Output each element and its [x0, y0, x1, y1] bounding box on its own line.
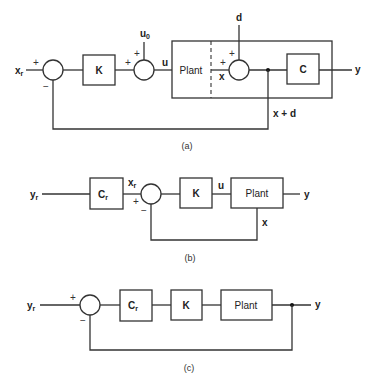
x-label: x: [219, 71, 225, 82]
output-y-label: y: [304, 189, 310, 200]
sum3-plus-left-sign: +: [220, 57, 226, 68]
sum-plus-sign: +: [70, 292, 76, 303]
summing-junction-3: [229, 60, 249, 80]
diagram-a: xr + − K + u0 + u Plant x + d +: [15, 12, 361, 151]
input-yr-label: yr: [27, 300, 36, 312]
output-y-label: y: [355, 64, 361, 75]
sum-minus-sign: −: [141, 205, 147, 216]
output-y-label: y: [315, 299, 321, 310]
sum-minus-sign: −: [80, 315, 86, 326]
diagram-b: yr Cr xr + − K u Plant y x (b): [30, 177, 310, 263]
summing-junction: [80, 295, 100, 315]
summing-junction-2: [134, 60, 154, 80]
summing-junction: [141, 184, 161, 204]
u0-label: u0: [140, 28, 150, 40]
feedback-x-label: x: [262, 217, 268, 228]
diagram-c: yr + − Cr K Plant y (c): [27, 290, 321, 373]
input-xr-label: xr: [15, 65, 24, 77]
sum2-plus-left-sign: +: [125, 57, 131, 68]
u-label: u: [218, 180, 224, 191]
u-label: u: [162, 57, 168, 68]
plant-label: Plant: [235, 300, 258, 311]
feedback-path-b: [151, 204, 257, 240]
caption-a: (a): [182, 141, 193, 151]
xr-label: xr: [128, 177, 137, 189]
sum2-plus-top-sign: +: [134, 48, 140, 59]
gain-block-k-label: K: [95, 65, 103, 76]
sum1-plus-sign: +: [33, 57, 39, 68]
caption-c: (c): [184, 363, 195, 373]
caption-b: (b): [185, 253, 196, 263]
plant-label: Plant: [246, 188, 269, 199]
summing-junction-1: [43, 60, 63, 80]
feedback-x-plus-d-label: x + d: [273, 108, 296, 119]
sum3-plus-top-sign: +: [229, 48, 235, 59]
gain-block-k-label: K: [192, 188, 200, 199]
gain-block-k-label: K: [182, 300, 190, 311]
sum1-minus-sign: −: [43, 81, 49, 92]
sum-plus-sign: +: [133, 196, 139, 207]
d-label: d: [236, 12, 242, 23]
plant-label: Plant: [180, 65, 203, 76]
input-yr-label: yr: [30, 189, 39, 201]
block-diagrams: xr + − K + u0 + u Plant x + d +: [0, 0, 378, 383]
output-block-c-label: C: [299, 64, 306, 75]
